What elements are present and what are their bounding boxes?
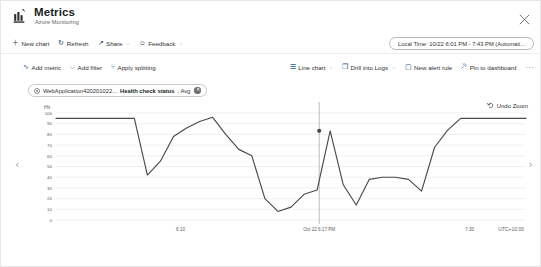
feedback-label: Feedback bbox=[148, 40, 175, 47]
line-chart-icon: ☰ bbox=[290, 64, 296, 71]
chart-gridlines bbox=[56, 113, 526, 220]
pin-to-dashboard-button[interactable]: Pin to dashboard bbox=[461, 63, 516, 71]
svg-text:90: 90 bbox=[47, 121, 52, 126]
pin-icon bbox=[461, 63, 467, 71]
chevron-down-icon: ⌵ bbox=[392, 64, 396, 71]
plus-icon: ＋ bbox=[12, 40, 19, 47]
new-alert-rule-label: New alert rule bbox=[414, 64, 452, 71]
metric-pill-resource: WebApplication420201022... bbox=[43, 88, 117, 94]
metric-pill-metric: Health check status bbox=[120, 88, 174, 94]
command-bar: ＋ New chart ↻ Refresh ↗ Share ⌵ ☺ Feedba… bbox=[1, 34, 541, 53]
share-button[interactable]: ↗ Share ⌵ bbox=[98, 40, 131, 47]
chart-toolbar-right: ☰ Line chart ⌵ ❐ Drill into Logs ⌵ ▢ New… bbox=[290, 58, 534, 76]
svg-text:10: 10 bbox=[47, 207, 52, 212]
apply-splitting-icon: ⑂ bbox=[111, 64, 115, 71]
share-label: Share bbox=[106, 40, 123, 47]
line-chart-button[interactable]: ☰ Line chart ⌵ bbox=[290, 64, 333, 71]
metric-pill[interactable]: WebApplication420201022... Health check … bbox=[28, 84, 207, 97]
metric-pill-row: WebApplication420201022... Health check … bbox=[1, 81, 541, 100]
chevron-down-icon: ⌵ bbox=[126, 40, 130, 47]
blade-header: Metrics Azure Monitoring bbox=[1, 1, 540, 32]
chart-data-line bbox=[56, 117, 526, 211]
add-metric-label: Add metric bbox=[32, 64, 62, 71]
feedback-icon: ☺ bbox=[139, 40, 146, 47]
chart-container[interactable]: Undo Zoom Hit ‹ › 1009080706050403020100… bbox=[1, 100, 541, 267]
page-title: Metrics bbox=[34, 6, 75, 18]
svg-text:0: 0 bbox=[50, 218, 53, 223]
chevron-down-icon: ⌵ bbox=[179, 40, 183, 47]
svg-text:Oct 22 6:17 PM: Oct 22 6:17 PM bbox=[303, 227, 335, 232]
add-filter-icon: ⌵ bbox=[70, 64, 75, 71]
apply-splitting-button[interactable]: ⑂ Apply splitting bbox=[111, 64, 156, 71]
add-metric-icon: ∿ bbox=[23, 64, 29, 71]
page-subtitle: Azure Monitoring bbox=[35, 19, 79, 25]
timezone-label: UTC+10:00 bbox=[498, 226, 524, 232]
metrics-blade: Metrics Azure Monitoring ＋ New chart ↻ R… bbox=[0, 0, 541, 267]
svg-text:40: 40 bbox=[47, 175, 52, 180]
svg-text:60: 60 bbox=[47, 154, 52, 159]
new-alert-rule-icon: ▢ bbox=[405, 64, 412, 71]
drill-into-logs-button[interactable]: ❐ Drill into Logs ⌵ bbox=[342, 64, 396, 71]
new-chart-button[interactable]: ＋ New chart bbox=[12, 40, 49, 47]
add-metric-button[interactable]: ∿ Add metric bbox=[23, 64, 61, 71]
y-axis-tick-labels: 1009080706050403020100 bbox=[45, 111, 53, 223]
svg-text:70: 70 bbox=[47, 143, 52, 148]
new-chart-label: New chart bbox=[22, 40, 50, 47]
svg-text:100: 100 bbox=[45, 111, 53, 116]
metric-pill-aggregation: , Avg bbox=[177, 88, 190, 94]
pin-to-dashboard-label: Pin to dashboard bbox=[470, 64, 517, 71]
divider bbox=[1, 53, 541, 54]
refresh-label: Refresh bbox=[67, 40, 89, 47]
chart-data-point-marker bbox=[317, 129, 321, 133]
new-alert-rule-button[interactable]: ▢ New alert rule bbox=[405, 64, 453, 71]
overflow-menu-icon[interactable]: ··· bbox=[526, 64, 535, 71]
remove-metric-icon[interactable]: ✕ bbox=[194, 87, 201, 94]
drill-into-logs-icon: ❐ bbox=[342, 64, 348, 71]
refresh-icon: ↻ bbox=[58, 40, 64, 47]
apply-splitting-label: Apply splitting bbox=[118, 64, 156, 71]
svg-text:20: 20 bbox=[47, 196, 52, 201]
share-icon: ↗ bbox=[98, 40, 104, 47]
x-axis-tick-labels: 6:10Oct 22 6:17 PM7:30 bbox=[176, 227, 474, 232]
add-filter-button[interactable]: ⌵ Add filter bbox=[70, 64, 102, 71]
close-icon[interactable] bbox=[519, 11, 530, 22]
svg-text:80: 80 bbox=[47, 132, 52, 137]
time-range-picker[interactable]: Local Time: 10/22 6:01 PM - 7:43 PM (Aut… bbox=[389, 37, 534, 50]
feedback-button[interactable]: ☺ Feedback ⌵ bbox=[139, 40, 183, 47]
svg-text:7:30: 7:30 bbox=[465, 227, 474, 232]
metrics-line-plot[interactable]: 1009080706050403020100 6:10Oct 22 6:17 P… bbox=[1, 100, 541, 267]
line-chart-label: Line chart bbox=[298, 64, 325, 71]
svg-text:30: 30 bbox=[47, 186, 52, 191]
chevron-down-icon: ⌵ bbox=[329, 64, 333, 71]
resource-scope-icon bbox=[34, 88, 40, 94]
refresh-button[interactable]: ↻ Refresh bbox=[58, 40, 88, 47]
metrics-bar-chart-icon bbox=[13, 9, 28, 24]
svg-text:50: 50 bbox=[47, 164, 52, 169]
svg-text:6:10: 6:10 bbox=[176, 227, 185, 232]
drill-into-logs-label: Drill into Logs bbox=[351, 64, 389, 71]
chart-toolbar: ∿ Add metric ⌵ Add filter ⑂ Apply splitt… bbox=[1, 58, 541, 76]
add-filter-label: Add filter bbox=[78, 64, 102, 71]
